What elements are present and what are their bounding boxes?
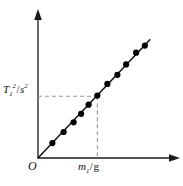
- x-axis: [38, 154, 180, 162]
- y-axis-label: T12/s2: [3, 84, 28, 95]
- graph-figure: T12/s2 m1/g O: [0, 0, 183, 186]
- origin-label: O: [28, 160, 37, 172]
- data-point: [94, 93, 100, 99]
- data-point: [78, 111, 84, 117]
- x-axis-label: m1/g: [78, 161, 99, 172]
- y-axis-arrowhead: [34, 9, 42, 20]
- data-point: [114, 72, 120, 78]
- data-point: [123, 61, 129, 67]
- y-axis: [34, 9, 42, 158]
- x-axis-label-text: m1/g: [78, 160, 99, 172]
- data-point: [142, 42, 148, 48]
- data-point: [71, 119, 77, 125]
- data-point: [49, 140, 55, 146]
- x-axis-arrowhead: [169, 154, 180, 162]
- y-axis-label-text: T12/s2: [3, 83, 28, 95]
- data-point: [86, 102, 92, 108]
- best-fit-line: [38, 40, 150, 158]
- data-point: [61, 129, 67, 135]
- data-point: [133, 50, 139, 56]
- data-point: [104, 81, 110, 87]
